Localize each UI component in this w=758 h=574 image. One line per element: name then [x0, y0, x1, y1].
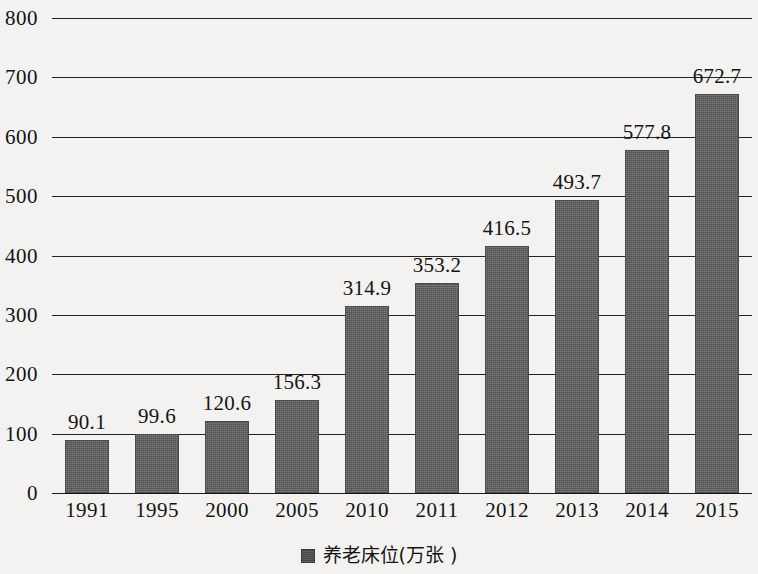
bar-value-label: 353.2 — [390, 255, 484, 276]
legend-swatch-icon — [301, 549, 315, 563]
bar — [485, 246, 529, 493]
bar-slot: 577.8 — [612, 18, 682, 493]
bar-slot: 416.5 — [472, 18, 542, 493]
bar-value-label: 577.8 — [600, 122, 694, 143]
bar-slot: 493.7 — [542, 18, 612, 493]
bar — [275, 400, 319, 493]
bar-chart-figure: 0100200300400500600700800 90.199.6120.61… — [0, 0, 758, 574]
bar-value-label: 416.5 — [460, 218, 554, 239]
y-axis-tick-label: 800 — [0, 8, 38, 29]
y-axis-tick-label: 700 — [0, 67, 38, 88]
x-axis-tick-label: 2000 — [192, 500, 262, 521]
bar-value-label: 120.6 — [180, 393, 274, 414]
gridline — [52, 493, 752, 494]
bar-slot: 156.3 — [262, 18, 332, 493]
bars-group: 90.199.6120.6156.3314.9353.2416.5493.757… — [52, 18, 752, 493]
bar — [415, 283, 459, 493]
bar-slot: 672.7 — [682, 18, 752, 493]
x-axis-tick-label: 2005 — [262, 500, 332, 521]
x-axis-tick-label: 2014 — [612, 500, 682, 521]
chart-legend: 养老床位(万张 ) — [0, 546, 758, 565]
x-axis-tick-labels: 1991199520002005201020112012201320142015 — [52, 500, 752, 530]
x-axis-tick-label: 2011 — [402, 500, 472, 521]
x-axis-tick-label: 2010 — [332, 500, 402, 521]
x-axis-tick-label: 1991 — [52, 500, 122, 521]
bar — [695, 94, 739, 493]
bar-slot: 353.2 — [402, 18, 472, 493]
bar-value-label: 672.7 — [670, 66, 758, 87]
bar — [625, 150, 669, 493]
x-axis-tick-label: 1995 — [122, 500, 192, 521]
legend-label: 养老床位(万张 ) — [323, 546, 458, 565]
bar — [345, 306, 389, 493]
bar-value-label: 156.3 — [250, 372, 344, 393]
x-axis-tick-label: 2013 — [542, 500, 612, 521]
x-axis-tick-label: 2015 — [682, 500, 752, 521]
bar-slot: 120.6 — [192, 18, 262, 493]
bar-value-label: 314.9 — [320, 278, 414, 299]
bar — [65, 440, 109, 493]
bar — [555, 200, 599, 493]
bar — [135, 434, 179, 493]
y-axis-tick-label: 500 — [0, 186, 38, 207]
bar — [205, 421, 249, 493]
y-axis-tick-label: 200 — [0, 364, 38, 385]
bar-value-label: 493.7 — [530, 172, 624, 193]
x-axis-tick-label: 2012 — [472, 500, 542, 521]
y-axis-tick-label: 0 — [0, 483, 38, 504]
y-axis-tick-label: 100 — [0, 424, 38, 445]
y-axis-tick-label: 300 — [0, 305, 38, 326]
y-axis-tick-label: 600 — [0, 127, 38, 148]
bar-slot: 99.6 — [122, 18, 192, 493]
y-axis-tick-label: 400 — [0, 246, 38, 267]
plot-area: 0100200300400500600700800 90.199.6120.61… — [52, 18, 752, 493]
